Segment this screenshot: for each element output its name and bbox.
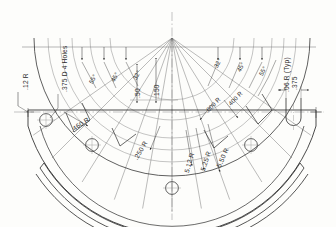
center-dimension-lines (130, 60, 178, 100)
hole (83, 136, 101, 154)
drawing-sheet: .12 R .375 D 4 Holes 55° 45° 32° .50 .15… (0, 0, 336, 227)
hole (37, 111, 55, 129)
hole (163, 179, 181, 197)
end-slot (278, 86, 309, 130)
drawing-canvas (0, 0, 336, 227)
corner-fillets (18, 60, 322, 118)
